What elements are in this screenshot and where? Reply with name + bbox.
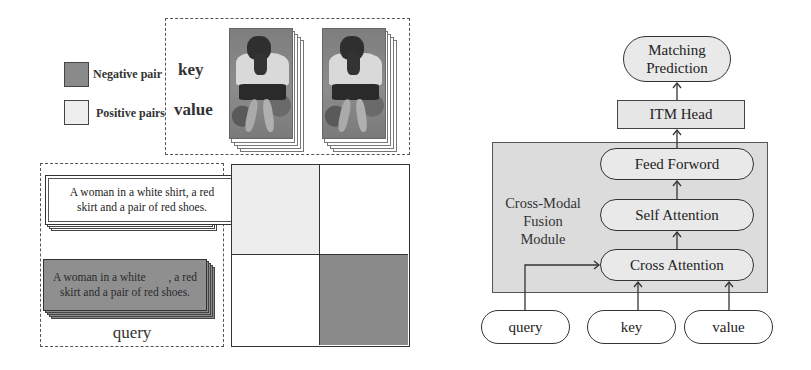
- flow-arrows: [0, 0, 811, 370]
